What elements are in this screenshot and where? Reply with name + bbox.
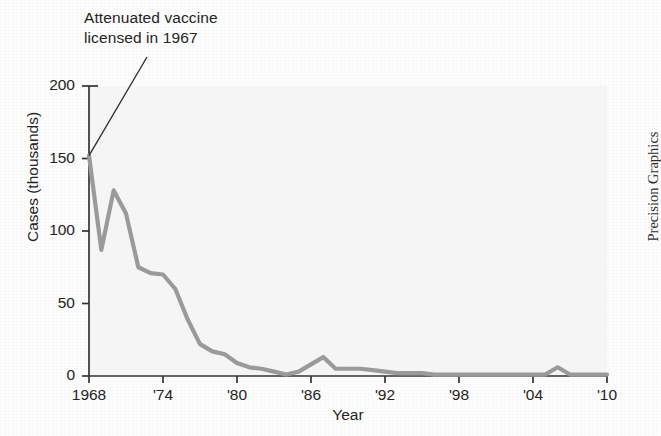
annotation-leader-line [89, 57, 147, 156]
axes-group [82, 86, 607, 383]
annotation-leader-group [89, 57, 147, 156]
data-series-group [89, 156, 607, 375]
figure-mumps-cases-chart: Attenuated vaccine licensed in 1967 Case… [0, 0, 661, 436]
data-line-mumps-cases [89, 156, 607, 375]
chart-svg [0, 0, 661, 436]
